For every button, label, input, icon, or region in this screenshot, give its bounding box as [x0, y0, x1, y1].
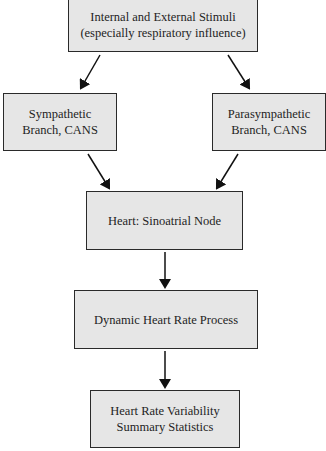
node-parasympathetic-label: Parasympathetic Branch, CANS	[228, 106, 311, 138]
node-sa-node-label: Heart: Sinoatrial Node	[108, 213, 221, 229]
arrow-parasympathetic-to-sa-node	[217, 154, 238, 188]
node-dynamic-hr: Dynamic Heart Rate Process	[74, 290, 258, 349]
node-stimuli-label: Internal and External Stimuli (especiall…	[80, 9, 245, 41]
arrow-sympathetic-to-sa-node	[88, 154, 109, 188]
node-stimuli: Internal and External Stimuli (especiall…	[68, 0, 258, 52]
arrow-stimuli-to-sympathetic	[81, 55, 100, 88]
node-dynamic-hr-label: Dynamic Heart Rate Process	[94, 312, 238, 328]
node-hrv-stats: Heart Rate Variability Summary Statistic…	[90, 390, 240, 448]
node-sympathetic-label: Sympathetic Branch, CANS	[22, 106, 98, 138]
node-hrv-stats-label: Heart Rate Variability Summary Statistic…	[110, 403, 219, 435]
node-parasympathetic: Parasympathetic Branch, CANS	[212, 93, 326, 151]
node-sympathetic: Sympathetic Branch, CANS	[3, 93, 117, 151]
arrow-stimuli-to-parasympathetic	[228, 55, 249, 88]
node-sa-node: Heart: Sinoatrial Node	[86, 191, 243, 250]
